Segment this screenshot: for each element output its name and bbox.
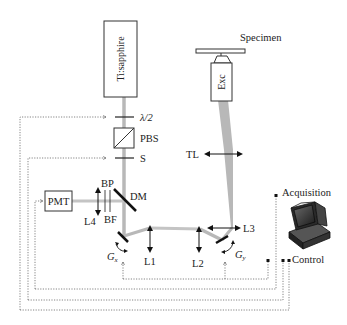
pmt-detector: PMT xyxy=(45,191,72,211)
half-wave-plate: λ/2 xyxy=(115,112,153,123)
ti-sapphire-label: Ti:sapphire xyxy=(115,36,126,82)
l3-label: L3 xyxy=(243,223,255,234)
tube-lens: TL xyxy=(186,149,243,160)
l4-label: L4 xyxy=(84,216,96,227)
lens-l1: L1 xyxy=(144,225,156,267)
lens-l4: L4 xyxy=(84,187,101,227)
specimen-label: Specimen xyxy=(240,32,282,43)
dm-label: DM xyxy=(130,191,148,202)
computer-icon xyxy=(289,202,330,249)
objective-lens: Exc xyxy=(211,53,232,101)
pbs-label: PBS xyxy=(140,133,159,144)
acquisition-label: Acquisition xyxy=(282,187,332,198)
bp-label: BP xyxy=(101,178,114,189)
l1-label: L1 xyxy=(144,256,156,267)
control-label: Control xyxy=(292,254,324,265)
l2-label: L2 xyxy=(192,258,204,269)
control-lines xyxy=(20,117,289,310)
connection-terminals xyxy=(267,194,291,262)
half-wave-plate-label: λ/2 xyxy=(139,112,153,123)
gy-label: Gy xyxy=(235,249,247,262)
gx-label: Gx xyxy=(107,251,119,264)
polarizing-beam-splitter: PBS xyxy=(114,128,159,148)
bf-label: BF xyxy=(104,214,117,225)
lens-l2: L2 xyxy=(192,226,204,269)
ti-sapphire-laser: Ti:sapphire xyxy=(104,21,137,97)
objective-label: Exc xyxy=(216,74,227,90)
pmt-label: PMT xyxy=(48,196,70,207)
shutter: S xyxy=(115,153,146,164)
galvo-y: Gy xyxy=(216,236,247,262)
specimen-stage: Specimen xyxy=(196,32,282,53)
tl-label: TL xyxy=(186,149,199,160)
microscope-diagram: Ti:sapphire λ/2 PBS S DM BP BF L4 PMT xyxy=(0,0,347,325)
shutter-label: S xyxy=(140,153,146,164)
